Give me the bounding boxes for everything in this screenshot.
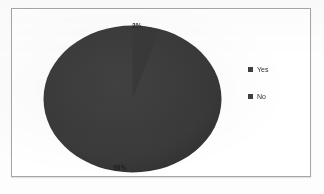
pie-chart-graphic[interactable] (43, 25, 222, 173)
plot-area: 2% 98% (12, 9, 238, 176)
legend-label-yes: Yes (257, 66, 268, 73)
chart-page: 2% 98% Yes No (0, 0, 324, 194)
legend-swatch-icon-no (248, 94, 253, 99)
chart-frame: 2% 98% Yes No (11, 8, 311, 177)
legend-item-no[interactable]: No (248, 91, 310, 101)
pie-label-yes: 2% (132, 22, 142, 29)
pie-label-no: 98% (113, 164, 127, 171)
legend-item-yes[interactable]: Yes (248, 64, 310, 74)
chart-legend: Yes No (248, 64, 310, 118)
legend-label-no: No (257, 93, 266, 100)
legend-swatch-icon-yes (248, 67, 253, 72)
